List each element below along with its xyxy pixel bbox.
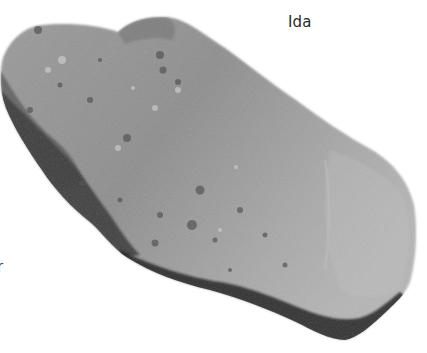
- asteroid-photo: [0, 0, 427, 353]
- asteroid-name-label: Ida: [288, 13, 312, 31]
- asteroid-illustration: [0, 0, 427, 353]
- cropped-text-fragment: r: [0, 258, 3, 276]
